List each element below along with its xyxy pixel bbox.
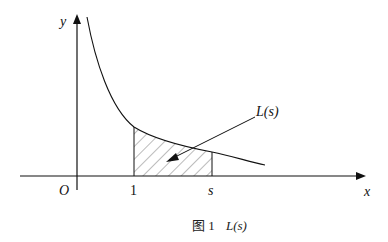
origin-label: O — [59, 183, 69, 198]
y-axis — [73, 14, 81, 190]
y-axis-label: y — [58, 14, 67, 29]
x-axis-label: x — [363, 184, 371, 199]
x-axis-arrow-icon — [356, 172, 366, 180]
figure-canvas: y x O 1 s L(s) 图 1 L(s) — [0, 0, 388, 242]
annotation-label: L(s) — [255, 104, 279, 120]
shaded-area-region — [134, 120, 214, 178]
caption-prefix: 图 1 — [192, 218, 215, 233]
caption-text: L(s) — [225, 218, 247, 233]
decreasing-curve — [87, 17, 265, 165]
y-axis-arrow-icon — [73, 14, 81, 24]
tick-label-s: s — [208, 183, 214, 198]
tick-label-one: 1 — [130, 183, 137, 198]
